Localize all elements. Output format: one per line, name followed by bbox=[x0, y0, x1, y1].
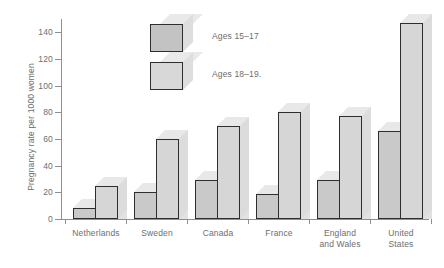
legend-swatch-dark-icon bbox=[150, 14, 196, 52]
y-tick-label-100: 100 bbox=[38, 81, 53, 91]
y-tick-80 bbox=[55, 112, 61, 113]
bar-united-states-series-1 bbox=[378, 131, 401, 219]
x-label-line2: States bbox=[361, 239, 441, 250]
bar-france-series-1 bbox=[256, 194, 279, 219]
bar-united-states-series-2 bbox=[400, 23, 423, 219]
y-axis-title: Pregnancy rate per 1000 women bbox=[26, 32, 36, 222]
bar-side-face bbox=[423, 14, 432, 219]
y-tick-label-140: 140 bbox=[38, 27, 53, 37]
x-tick-1 bbox=[126, 219, 127, 224]
y-tick-140 bbox=[55, 32, 61, 33]
y-tick-0 bbox=[55, 219, 61, 220]
legend-swatch-light-icon bbox=[150, 52, 196, 90]
bar-sweden-series-2 bbox=[156, 139, 179, 219]
x-axis-line bbox=[61, 219, 429, 220]
y-tick-label-0: 0 bbox=[48, 214, 53, 224]
bar-canada-series-1 bbox=[195, 180, 218, 219]
x-tick-0 bbox=[65, 219, 66, 224]
legend-label-ages-15-17: Ages 15–17 bbox=[212, 31, 259, 41]
bar-netherlands-series-2 bbox=[95, 186, 118, 219]
x-tick-4 bbox=[309, 219, 310, 224]
y-tick-label-40: 40 bbox=[43, 161, 53, 171]
y-tick-40 bbox=[55, 166, 61, 167]
legend-label-ages-18-19: Ages 18–19. bbox=[212, 69, 261, 79]
x-label-5: UnitedStates bbox=[361, 228, 441, 250]
x-tick-3 bbox=[248, 219, 249, 224]
y-tick-100 bbox=[55, 86, 61, 87]
bar-england-and-wales-series-2 bbox=[339, 116, 362, 219]
y-tick-120 bbox=[55, 59, 61, 60]
bar-side-face bbox=[179, 130, 188, 219]
y-tick-label-20: 20 bbox=[43, 187, 53, 197]
y-tick-20 bbox=[55, 192, 61, 193]
bar-side-face bbox=[362, 107, 371, 219]
bar-chart: Pregnancy rate per 1000 women 0204060801… bbox=[0, 0, 444, 268]
y-tick-60 bbox=[55, 139, 61, 140]
bar-england-and-wales-series-1 bbox=[317, 180, 340, 219]
bar-netherlands-series-1 bbox=[73, 208, 96, 219]
y-tick-label-120: 120 bbox=[38, 54, 53, 64]
y-tick-label-60: 60 bbox=[43, 134, 53, 144]
bar-canada-series-2 bbox=[217, 126, 240, 219]
x-label-line1: United bbox=[361, 228, 441, 239]
x-tick-6 bbox=[431, 219, 432, 224]
y-tick-label-80: 80 bbox=[43, 107, 53, 117]
y-axis-line bbox=[61, 19, 62, 220]
x-tick-5 bbox=[370, 219, 371, 224]
bar-sweden-series-1 bbox=[134, 192, 157, 219]
bar-side-face bbox=[301, 103, 310, 219]
x-tick-2 bbox=[187, 219, 188, 224]
bar-france-series-2 bbox=[278, 112, 301, 219]
bar-side-face bbox=[240, 117, 249, 219]
